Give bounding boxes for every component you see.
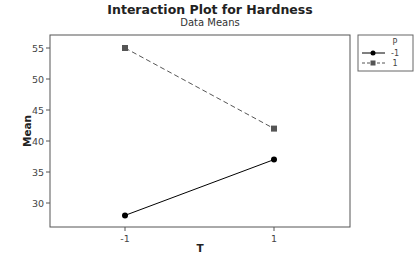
- x-tick-label: -1: [120, 233, 129, 244]
- x-tick-label: 1: [271, 233, 277, 244]
- legend-circle-icon: [371, 51, 376, 56]
- y-tick-label: 30: [32, 198, 44, 209]
- y-axis-label: Mean: [21, 115, 33, 147]
- square-marker-icon: [122, 45, 128, 51]
- circle-marker-icon: [122, 212, 128, 218]
- legend-title: P: [393, 38, 398, 47]
- legend-label: -1: [391, 49, 399, 58]
- legend-square-icon: [371, 61, 376, 66]
- y-tick-label: 55: [32, 43, 44, 54]
- series-line-1: [125, 48, 274, 129]
- plot-frame: [50, 35, 350, 227]
- interaction-plot: 303540455055-11TMeanP-11: [0, 0, 420, 265]
- series-line--1: [125, 160, 274, 216]
- circle-marker-icon: [271, 157, 277, 163]
- y-tick-label: 45: [32, 105, 44, 116]
- y-tick-label: 50: [32, 74, 44, 85]
- y-tick-label: 35: [32, 167, 44, 178]
- y-tick-label: 40: [32, 136, 44, 147]
- square-marker-icon: [271, 126, 277, 132]
- x-axis-label: T: [196, 242, 204, 254]
- legend-label: 1: [392, 59, 397, 68]
